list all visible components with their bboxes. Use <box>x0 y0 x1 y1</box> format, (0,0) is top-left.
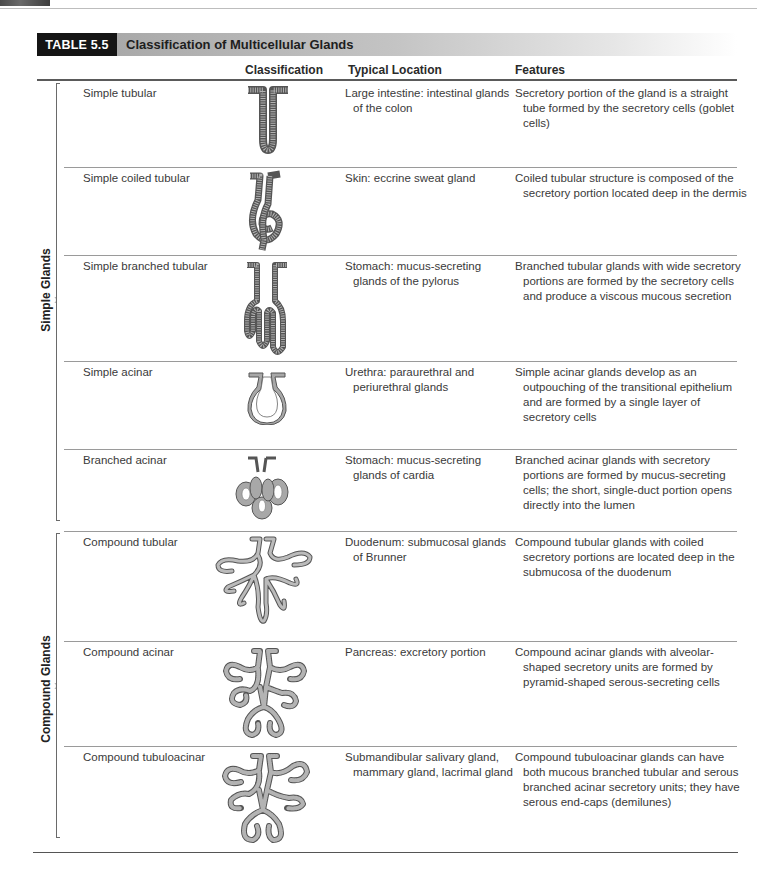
row-features: Compound tubuloacinar glands can have bo… <box>515 750 748 810</box>
row-location: Urethra: paraurethral and periurethral g… <box>345 365 513 395</box>
row-location: Stomach: mucus-secreting glands of the p… <box>345 259 513 289</box>
table-row: Compound acinar Pancreas: excretory port… <box>64 641 737 746</box>
bracket-nub <box>53 683 57 689</box>
row-divider <box>64 361 737 362</box>
row-divider <box>64 641 737 642</box>
compound-glands-bracket <box>56 533 57 838</box>
row-classification: Branched acinar <box>83 453 233 468</box>
column-header-features: Features <box>515 63 565 77</box>
simple-tubular-gland-illustration <box>243 84 293 160</box>
row-features: Compound tubular glands with coiled secr… <box>515 535 748 580</box>
table-row: Branched acinar Stomach: mucus-secreting… <box>64 449 737 531</box>
compound-tubuloacinar-gland-illustration <box>219 752 311 848</box>
group-label-compound-glands: Compound Glands <box>39 629 53 749</box>
group-label-simple-glands: Simple Glands <box>39 240 53 340</box>
table-bottom-rule <box>33 852 738 853</box>
page-corner-image-fragment <box>0 0 50 6</box>
column-header-classification: Classification <box>245 63 323 77</box>
table-row: Compound tubuloacinar Submandibular sali… <box>64 746 737 852</box>
row-divider <box>64 746 737 747</box>
row-location: Stomach: mucus-secreting glands of cardi… <box>345 453 513 483</box>
branched-acinar-gland-illustration <box>234 454 290 520</box>
row-features: Coiled tubular structure is composed of … <box>515 171 748 201</box>
table-title-bar: TABLE 5.5 Classification of Multicellula… <box>37 33 737 56</box>
row-features: Simple acinar glands develop as an outpo… <box>515 365 748 425</box>
row-location: Duodenum: submucosal glands of Brunner <box>345 535 513 565</box>
table-row: Compound tubular Duodenum: submucosal gl… <box>64 531 737 641</box>
row-classification: Simple coiled tubular <box>83 171 233 186</box>
page-top-rule <box>0 8 757 9</box>
row-features: Secretory portion of the gland is a stra… <box>515 86 748 131</box>
header-rule <box>37 79 737 81</box>
row-classification: Simple tubular <box>83 86 233 101</box>
compound-tubular-gland-illustration <box>214 535 314 627</box>
table-title-wrap: Classification of Multicellular Glands <box>117 33 737 56</box>
simple-branched-tubular-gland-illustration <box>241 261 293 357</box>
row-classification: Simple branched tubular <box>83 259 241 274</box>
simple-acinar-gland-illustration <box>247 369 287 425</box>
row-location: Submandibular salivary gland, mammary gl… <box>345 750 513 780</box>
row-location: Pancreas: excretory portion <box>345 645 513 660</box>
row-location: Skin: eccrine sweat gland <box>345 171 513 186</box>
row-classification: Compound tubular <box>83 535 233 550</box>
row-classification: Simple acinar <box>83 365 233 380</box>
table-title: Classification of Multicellular Glands <box>126 37 354 52</box>
row-features: Branched acinar glands with secretory po… <box>515 453 748 513</box>
row-divider <box>64 531 737 532</box>
row-location: Large intestine: intestinal glands of th… <box>345 86 513 116</box>
compound-acinar-gland-illustration <box>220 647 310 743</box>
table-row: Simple branched tubular Stomach: mucus-s… <box>64 255 737 361</box>
table-number-badge: TABLE 5.5 <box>37 33 117 56</box>
bracket-nub <box>53 297 57 303</box>
row-divider <box>64 255 737 256</box>
simple-coiled-tubular-gland-illustration <box>240 170 296 254</box>
table-row: Simple acinar Urethra: paraurethral and … <box>64 361 737 449</box>
column-header-location: Typical Location <box>348 63 442 77</box>
row-classification: Compound acinar <box>83 645 233 660</box>
table-row: Simple coiled tubular Skin: eccrine swea… <box>64 167 737 255</box>
row-classification: Compound tubuloacinar <box>83 750 241 765</box>
simple-glands-bracket <box>56 83 57 521</box>
row-features: Compound acinar glands with alveolar-sha… <box>515 645 748 690</box>
table-row: Simple tubular Large intestine: intestin… <box>64 82 737 167</box>
row-divider <box>64 167 737 168</box>
row-divider <box>64 449 737 450</box>
row-features: Branched tubular glands with wide secret… <box>515 259 748 304</box>
